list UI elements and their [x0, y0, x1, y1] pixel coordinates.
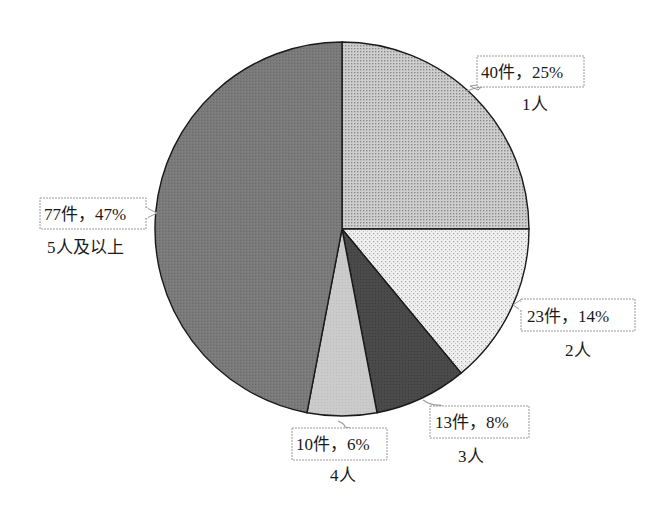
callout-3-persons: 13件，8% 3人 [423, 400, 529, 466]
callout-label-2-persons: 23件，14% [527, 307, 609, 326]
callout-5-plus-persons: 77件，47% 5人及以上 [40, 198, 157, 257]
category-label-4-persons: 4人 [330, 466, 356, 485]
callout-label-5-plus-persons: 77件，47% [44, 205, 126, 224]
category-label-3-persons: 3人 [458, 447, 484, 466]
pie-chart: 40件，25% 1人 23件，14% 2人 13件，8% 3人 10件，6% 4… [0, 0, 664, 517]
callout-2-persons: 23件，14% 2人 [513, 299, 635, 360]
pie-slice-5-plus-persons [155, 42, 342, 413]
callout-1-person: 40件，25% 1人 [467, 56, 584, 114]
callout-label-4-persons: 10件，6% [296, 435, 370, 454]
callout-label-1-person: 40件，25% [481, 63, 563, 82]
category-label-5-plus-persons: 5人及以上 [47, 238, 124, 257]
callout-4-persons: 10件，6% 4人 [292, 421, 387, 485]
callout-label-3-persons: 13件，8% [435, 413, 509, 432]
category-label-1-person: 1人 [522, 95, 548, 114]
category-label-2-persons: 2人 [565, 341, 591, 360]
